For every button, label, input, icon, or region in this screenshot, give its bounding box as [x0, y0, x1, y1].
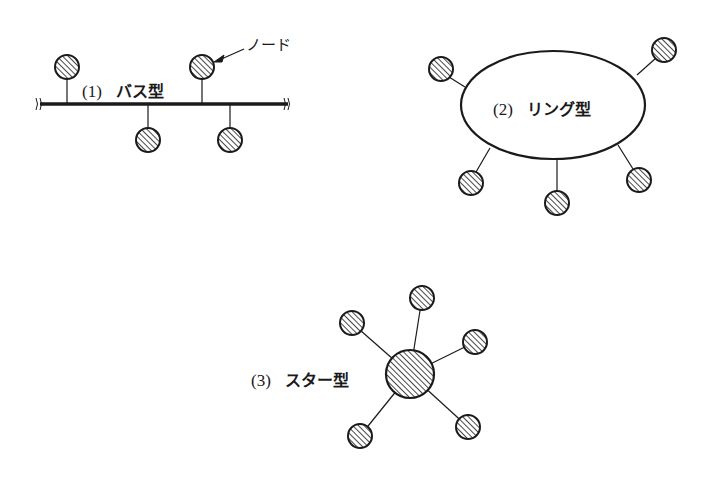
- star-topology: [340, 286, 487, 448]
- node-annotation: ノード: [246, 33, 291, 54]
- star-number: (3): [251, 371, 271, 390]
- bus-title: バス型: [116, 82, 164, 101]
- bus-label: (1)バス型: [82, 78, 164, 102]
- star-title: スター型: [285, 371, 349, 390]
- network-topology-figure: [0, 0, 705, 484]
- ring-topology: [429, 38, 676, 215]
- ring-number: (2): [493, 100, 513, 119]
- ring-label: (2)リング型: [493, 96, 591, 120]
- ring-title: リング型: [527, 100, 591, 119]
- bus-number: (1): [82, 82, 102, 101]
- star-label: (3)スター型: [251, 367, 349, 391]
